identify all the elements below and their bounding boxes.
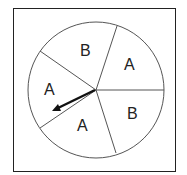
- section-label-a-bottom: A: [77, 117, 88, 134]
- divider-bottom: [96, 90, 116, 153]
- divider-top: [96, 26, 117, 90]
- section-label-a-left: A: [44, 81, 55, 98]
- section-label-a-right: A: [124, 56, 135, 73]
- spinner-arrow-icon: [52, 90, 95, 111]
- spinner-diagram: B A B A A: [0, 0, 187, 175]
- section-label-b-top: B: [80, 42, 91, 59]
- section-label-b-right: B: [127, 105, 138, 122]
